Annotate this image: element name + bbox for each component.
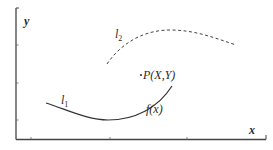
y-axis	[16, 8, 19, 140]
x-axis	[16, 135, 266, 140]
curve-l2	[107, 30, 236, 64]
point-p-label: P(X,Y)	[142, 68, 175, 82]
curve-l2-label: l2	[115, 27, 122, 43]
point-p-marker	[140, 74, 142, 76]
x-axis-label: x	[248, 123, 255, 137]
y-axis-label: y	[22, 14, 30, 28]
curve-l1-label: l1	[61, 93, 68, 109]
diagram: y x l1 l2 P(X,Y) f(x)	[0, 0, 273, 150]
diagram-canvas: y x l1 l2 P(X,Y) f(x)	[0, 0, 273, 150]
function-label: f(x)	[146, 102, 163, 116]
